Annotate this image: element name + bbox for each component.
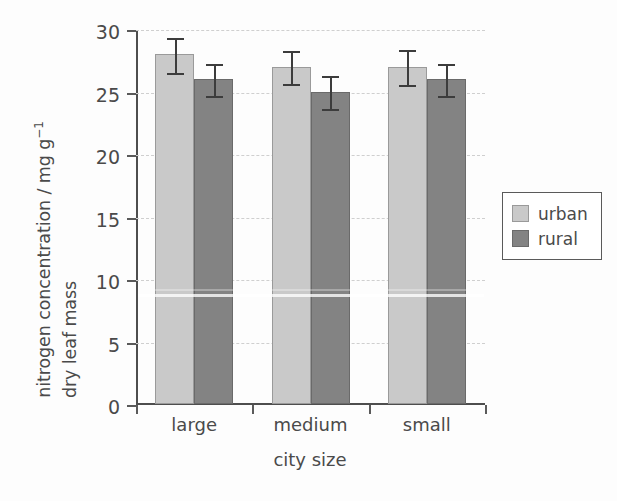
legend-item-urban: urban <box>512 201 588 226</box>
error-cap-upper <box>283 51 300 53</box>
x-axis-category-label-medium: medium <box>274 414 348 435</box>
error-bar-urban-medium <box>291 51 293 84</box>
y-axis-tick-label: 25 <box>96 83 120 105</box>
legend-swatch-rural <box>512 230 529 247</box>
y-axis-tick: 25 <box>127 93 136 95</box>
y-axis-tick: 20 <box>127 155 136 157</box>
x-axis-tick <box>369 405 371 414</box>
error-cap-upper <box>399 50 416 52</box>
y-axis-tick: 30 <box>127 30 136 32</box>
error-cap-lower <box>283 84 300 86</box>
y-axis-tick: 0 <box>127 405 136 407</box>
y-axis-tick: 15 <box>127 218 136 220</box>
y-axis-label-line-1: nitrogen concentration / mg g−1 <box>32 121 54 398</box>
x-axis-category-label-large: large <box>171 414 217 435</box>
x-axis-label: city size <box>273 449 346 470</box>
bar-urban-large <box>155 54 194 404</box>
legend-label-rural: rural <box>538 229 578 249</box>
error-cap-lower <box>167 73 184 75</box>
bar-rural-large <box>194 79 233 404</box>
y-axis-label-exponent: −1 <box>32 121 46 139</box>
legend-swatch-urban <box>512 205 529 222</box>
error-bar-rural-medium <box>330 76 332 109</box>
error-bar-urban-small <box>407 50 409 85</box>
y-axis-tick-label: 20 <box>96 146 120 168</box>
y-axis-tick-label: 5 <box>108 333 120 355</box>
y-axis-tick-label: 0 <box>108 396 120 418</box>
error-cap-upper <box>167 38 184 40</box>
x-axis-tick <box>136 405 138 414</box>
error-cap-upper <box>438 64 455 66</box>
bar-chart-figure: nitrogen concentration / mg g−1 dry leaf… <box>0 0 617 501</box>
legend-item-rural: rural <box>512 226 588 251</box>
error-bar-urban-large <box>175 38 177 73</box>
error-cap-upper <box>206 64 223 66</box>
bar-urban-medium <box>272 67 311 405</box>
y-axis-tick-label: 15 <box>96 208 120 230</box>
y-axis-tick-label: 10 <box>96 271 120 293</box>
x-axis-category-label-small: small <box>403 414 451 435</box>
error-cap-lower <box>206 96 223 98</box>
error-cap-upper <box>322 76 339 78</box>
error-cap-lower <box>322 109 339 111</box>
error-bar-rural-small <box>446 64 448 97</box>
bar-urban-small <box>388 67 427 405</box>
legend: urbanrural <box>502 192 602 260</box>
y-axis-label: nitrogen concentration / mg g−1 dry leaf… <box>14 0 100 440</box>
y-axis-label-text: nitrogen concentration / mg g <box>34 139 54 398</box>
x-axis-tick <box>252 405 254 414</box>
x-axis-tick <box>485 405 487 414</box>
legend-label-urban: urban <box>538 204 588 224</box>
y-axis-tick-label: 30 <box>96 21 120 43</box>
plot-area: 051015202530 <box>136 30 485 405</box>
bar-rural-medium <box>311 92 350 405</box>
error-bar-rural-large <box>214 64 216 97</box>
error-cap-lower <box>438 96 455 98</box>
y-axis-tick: 10 <box>127 280 136 282</box>
error-cap-lower <box>399 85 416 87</box>
y-axis-label-line-2: dry leaf mass <box>60 281 80 398</box>
gridline <box>136 30 485 31</box>
bar-rural-small <box>427 79 466 404</box>
y-axis-tick: 5 <box>127 343 136 345</box>
